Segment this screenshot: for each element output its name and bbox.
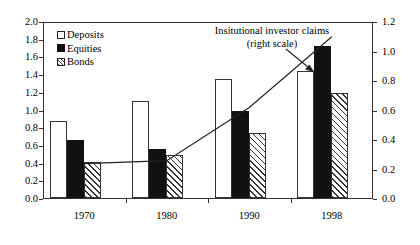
annotation-institutional-claims: Insitutional investor claims (right scal…	[196, 25, 348, 50]
chart-container: 0.00.20.40.60.81.01.21.41.61.82.0 0.00.2…	[0, 0, 420, 245]
legend-item-bonds: Bonds	[57, 55, 104, 69]
bar-deposits-1990	[215, 79, 232, 198]
x-axis-tick-mark	[208, 199, 209, 203]
y-axis-left-tick-label: 1.2	[8, 88, 38, 98]
y-axis-left-tick-label: 0.8	[8, 123, 38, 133]
y-axis-right-tick-label: 0.0	[382, 194, 412, 204]
legend: Deposits Equities Bonds	[57, 28, 104, 69]
y-axis-left-tick-label: 0.6	[8, 141, 38, 151]
y-axis-left-tick-label: 1.0	[8, 106, 38, 116]
y-axis-right-tick-label: 0.8	[382, 76, 412, 86]
y-axis-right-tick-mark	[373, 140, 377, 141]
bar-deposits-1998	[297, 71, 314, 198]
bar-equities-1970	[67, 140, 84, 198]
bar-bonds-1970	[84, 162, 101, 198]
y-axis-left-tick-label: 0.0	[8, 194, 38, 204]
legend-swatch-bonds-icon	[57, 58, 65, 66]
bar-bonds-1998	[331, 93, 348, 198]
legend-label-equities: Equities	[67, 42, 101, 56]
y-axis-right-tick-mark	[373, 199, 377, 200]
bar-equities-1990	[232, 111, 249, 198]
legend-item-equities: Equities	[57, 42, 104, 56]
x-axis-tick-label: 1970	[54, 210, 114, 221]
y-axis-right-tick-mark	[373, 22, 377, 23]
annotation-line-1: Insitutional investor claims	[196, 25, 348, 38]
x-axis-tick-label: 1990	[219, 210, 279, 221]
legend-label-bonds: Bonds	[67, 55, 94, 69]
y-axis-right-tick-mark	[373, 111, 377, 112]
bar-bonds-1990	[249, 133, 266, 198]
legend-swatch-equities-icon	[57, 44, 65, 52]
bar-equities-1980	[149, 149, 166, 198]
x-axis-tick-mark	[126, 199, 127, 203]
y-axis-right-tick-label: 1.0	[382, 47, 412, 57]
bar-deposits-1970	[50, 121, 67, 198]
y-axis-right-tick-mark	[373, 52, 377, 53]
y-axis-right-tick-label: 0.4	[382, 135, 412, 145]
y-axis-left-tick-mark	[39, 199, 43, 200]
y-axis-left-tick-label: 0.2	[8, 176, 38, 186]
y-axis-right-tick-label: 0.2	[382, 165, 412, 175]
y-axis-left-tick-label: 0.4	[8, 159, 38, 169]
y-axis-right-tick-label: 1.2	[382, 17, 412, 27]
y-axis-right-tick-mark	[373, 81, 377, 82]
bar-equities-1998	[314, 46, 331, 198]
legend-item-deposits: Deposits	[57, 28, 104, 42]
x-axis-tick-label: 1980	[137, 210, 197, 221]
legend-swatch-deposits-icon	[57, 31, 65, 39]
y-axis-left-tick-label: 1.8	[8, 35, 38, 45]
x-axis-tick-mark	[291, 199, 292, 203]
x-axis-tick-label: 1998	[302, 210, 362, 221]
y-axis-left-tick-label: 1.4	[8, 70, 38, 80]
legend-label-deposits: Deposits	[67, 28, 104, 42]
y-axis-left-tick-label: 2.0	[8, 17, 38, 27]
bar-bonds-1980	[166, 155, 183, 198]
y-axis-right-tick-label: 0.6	[382, 106, 412, 116]
bar-deposits-1980	[132, 101, 149, 198]
y-axis-left-tick-label: 1.6	[8, 52, 38, 62]
annotation-line-2: (right scale)	[196, 38, 348, 51]
y-axis-right-tick-mark	[373, 170, 377, 171]
